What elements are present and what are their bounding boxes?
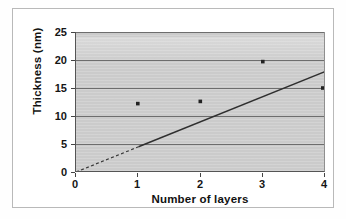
data-point-1 — [136, 102, 140, 106]
x-tickmark-3 — [262, 173, 263, 177]
chart-frame: 25 20 15 10 5 0 0 1 2 3 4 Thickness (nm)… — [12, 8, 334, 208]
y-tick-label-5: 5 — [27, 139, 67, 150]
chart-figure: 25 20 15 10 5 0 0 1 2 3 4 Thickness (nm)… — [0, 0, 346, 219]
x-tickmark-4 — [324, 173, 325, 177]
y-tick-label-0: 0 — [27, 167, 67, 178]
x-tick-label-2: 2 — [185, 179, 215, 190]
x-tickmark-2 — [200, 173, 201, 177]
y-tickmark-5 — [71, 144, 75, 145]
x-tick-label-3: 3 — [247, 179, 277, 190]
x-axis-title: Number of layers — [75, 193, 325, 205]
y-tickmark-10 — [71, 116, 75, 117]
y-tickmark-25 — [71, 32, 75, 33]
data-point-2 — [199, 100, 203, 104]
trendline-dashed-segment — [76, 147, 139, 172]
x-tick-label-0: 0 — [60, 179, 90, 190]
plot-area — [75, 32, 325, 172]
trendline-solid-segment — [139, 71, 326, 147]
x-tick-label-1: 1 — [122, 179, 152, 190]
data-point-4 — [321, 86, 325, 90]
x-tick-label-4: 4 — [309, 179, 339, 190]
y-tickmark-20 — [71, 60, 75, 61]
y-tickmark-15 — [71, 88, 75, 89]
x-tickmark-1 — [137, 173, 138, 177]
x-tickmark-0 — [75, 173, 76, 177]
data-point-3 — [261, 60, 265, 64]
y-axis-title: Thickness (nm) — [31, 9, 43, 133]
data-layer — [76, 32, 325, 172]
